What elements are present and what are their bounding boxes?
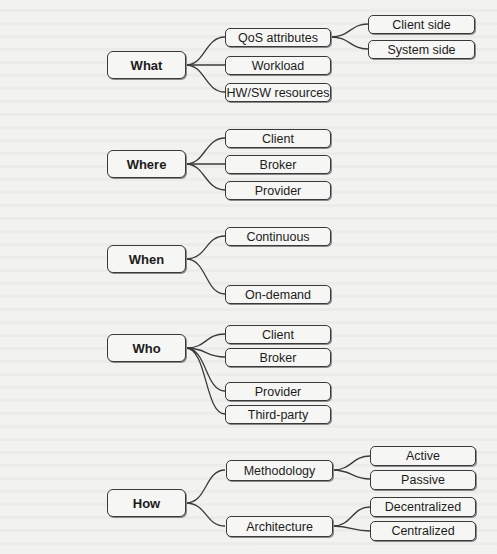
link-architecture-decentralized	[333, 507, 370, 526]
node-who-provider: Provider	[225, 382, 331, 401]
node-centralized-label: Centralized	[391, 524, 454, 538]
node-active: Active	[370, 446, 476, 466]
node-where: Where	[107, 150, 186, 178]
node-who-client-label: Client	[262, 328, 294, 342]
node-on-demand-label: On-demand	[245, 288, 311, 302]
link-how-architecture	[186, 503, 225, 526]
link-what-qos	[186, 37, 225, 65]
node-passive-label: Passive	[401, 473, 445, 487]
node-methodology-label: Methodology	[244, 464, 316, 478]
node-hwsw-resources: HW/SW resources	[225, 83, 331, 102]
node-architecture: Architecture	[226, 516, 333, 537]
node-when-label: When	[129, 252, 164, 267]
link-where-client	[186, 138, 225, 164]
link-where-provider	[186, 164, 225, 190]
node-workload-label: Workload	[252, 59, 305, 73]
node-where-label: Where	[127, 157, 167, 172]
node-qos-attributes-label: QoS attributes	[238, 31, 318, 45]
node-who-client: Client	[225, 325, 331, 344]
node-who: Who	[107, 334, 186, 362]
link-when-ondemand	[186, 259, 225, 294]
node-qos-attributes: QoS attributes	[225, 28, 331, 47]
link-qos-client-side	[331, 24, 368, 37]
node-methodology: Methodology	[226, 460, 333, 481]
node-who-label: Who	[132, 341, 160, 356]
link-how-methodology	[186, 470, 225, 503]
node-what-label: What	[131, 58, 163, 73]
node-system-side: System side	[368, 40, 475, 59]
link-methodology-active	[333, 456, 370, 470]
node-workload: Workload	[225, 56, 331, 75]
node-third-party-label: Third-party	[248, 408, 308, 422]
link-who-client	[186, 334, 225, 348]
node-third-party: Third-party	[225, 405, 331, 424]
node-where-client: Client	[225, 129, 331, 148]
node-where-provider: Provider	[225, 181, 331, 200]
node-continuous-label: Continuous	[246, 230, 309, 244]
link-architecture-centralized	[333, 526, 370, 531]
link-when-continuous	[186, 236, 225, 259]
node-how-label: How	[133, 496, 160, 511]
node-client-side: Client side	[368, 15, 475, 34]
node-active-label: Active	[406, 449, 440, 463]
node-architecture-label: Architecture	[246, 520, 313, 534]
node-where-broker: Broker	[225, 155, 331, 174]
link-who-thirdparty	[186, 348, 225, 414]
node-decentralized-label: Decentralized	[385, 500, 461, 514]
link-what-hwsw	[186, 65, 225, 92]
node-system-side-label: System side	[387, 43, 455, 57]
node-passive: Passive	[370, 470, 476, 490]
node-where-provider-label: Provider	[255, 184, 302, 198]
node-what: What	[107, 51, 186, 79]
node-when: When	[107, 245, 186, 273]
link-who-provider	[186, 348, 225, 391]
node-on-demand: On-demand	[225, 285, 331, 304]
node-client-side-label: Client side	[392, 18, 450, 32]
node-continuous: Continuous	[225, 227, 331, 246]
node-who-broker: Broker	[225, 348, 331, 367]
node-hwsw-resources-label: HW/SW resources	[227, 86, 330, 100]
link-qos-system-side	[331, 37, 368, 49]
node-who-provider-label: Provider	[255, 385, 302, 399]
link-methodology-passive	[333, 470, 370, 479]
node-centralized: Centralized	[370, 521, 476, 541]
node-where-broker-label: Broker	[260, 158, 297, 172]
node-decentralized: Decentralized	[370, 497, 476, 517]
node-who-broker-label: Broker	[260, 351, 297, 365]
node-where-client-label: Client	[262, 132, 294, 146]
node-how: How	[107, 489, 186, 517]
